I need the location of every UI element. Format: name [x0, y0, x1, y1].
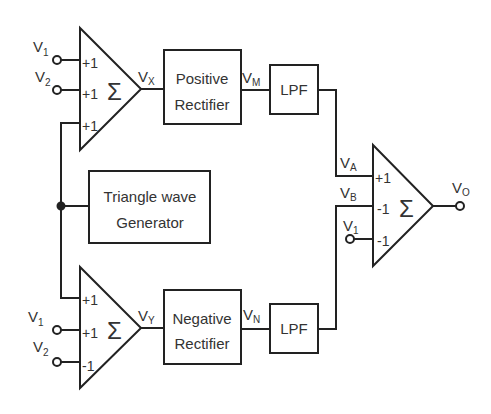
v2-top-label: V2: [35, 68, 51, 88]
junction-dot: [58, 203, 65, 210]
bottom-coef-1: +1: [82, 292, 98, 308]
v2-top-terminal: [53, 86, 61, 94]
triangle-gen-line1: Triangle wave: [104, 188, 197, 205]
triangle-generator-box: [89, 171, 210, 243]
triangle-gen-line2: Generator: [116, 214, 184, 231]
vm-label: VM: [242, 69, 260, 88]
top-coef-3: +1: [82, 118, 98, 134]
v1-top-label: V1: [33, 38, 49, 58]
vo-terminal: [456, 202, 464, 210]
v1-bottom-terminal: [53, 326, 61, 334]
bottom-coef-2: +1: [82, 325, 98, 341]
right-coef-3: -1: [377, 233, 390, 249]
vy-label: VY: [138, 307, 155, 326]
v1-right-label: V1: [343, 217, 359, 236]
negative-rectifier-line1: Negative: [172, 310, 231, 327]
vo-label: VO: [452, 179, 470, 198]
v2-bottom-label: V2: [33, 338, 49, 358]
vx-label: VX: [138, 68, 155, 87]
positive-rectifier-line1: Positive: [176, 70, 229, 87]
right-coef-1: +1: [375, 170, 391, 186]
block-diagram: V1 V2 +1 +1 +1 Σ VX Positive Rectifier V…: [0, 0, 491, 414]
vn-label: VN: [243, 306, 260, 325]
triangle-bus: [61, 123, 80, 298]
bottom-sigma: Σ: [107, 317, 122, 344]
top-coef-1: +1: [82, 55, 98, 71]
negative-rectifier-line2: Rectifier: [174, 335, 229, 352]
v1-right-terminal: [346, 235, 354, 243]
va-label: VA: [340, 154, 357, 173]
top-coef-2: +1: [82, 86, 98, 102]
v2-bottom-terminal: [53, 358, 61, 366]
lpf-bottom-label: LPF: [280, 320, 308, 337]
bottom-coef-3: -1: [82, 358, 95, 374]
vb-label: VB: [340, 184, 357, 203]
lpf-top-label: LPF: [280, 81, 308, 98]
top-sigma: Σ: [107, 78, 122, 105]
right-sigma: Σ: [399, 195, 414, 222]
negative-rectifier-box: [164, 290, 241, 364]
right-coef-2: -1: [377, 201, 390, 217]
positive-rectifier-line2: Rectifier: [174, 96, 229, 113]
v1-top-terminal: [53, 56, 61, 64]
v1-bottom-label: V1: [28, 308, 44, 328]
